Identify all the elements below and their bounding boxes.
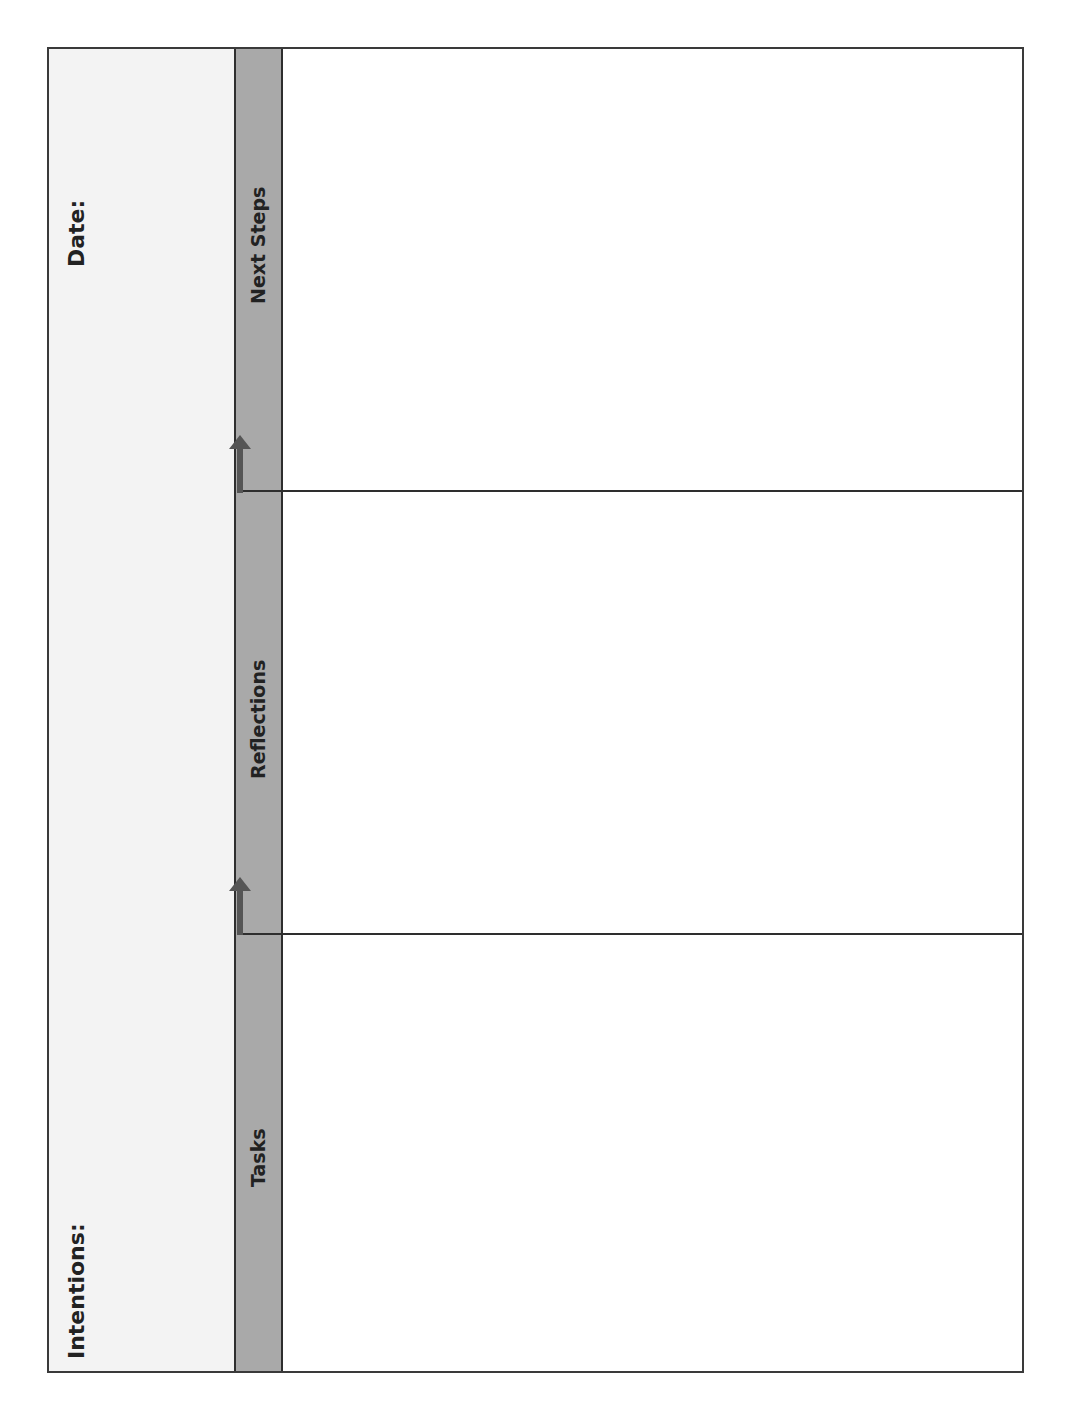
- date-label: Date:: [64, 200, 89, 267]
- section-divider: [239, 933, 1022, 935]
- section-label-tasks: Tasks: [247, 1128, 269, 1187]
- arrow-up-icon: [227, 875, 251, 937]
- section-area-next-steps[interactable]: [283, 49, 1022, 490]
- section-label-next-steps: Next Steps: [247, 187, 269, 304]
- section-area-tasks[interactable]: [283, 935, 1022, 1371]
- intentions-label: Intentions:: [64, 1223, 89, 1359]
- section-label-band: Next Steps Reflections Tasks: [236, 49, 283, 1371]
- section-area-reflections[interactable]: [283, 492, 1022, 933]
- section-label-reflections: Reflections: [247, 660, 269, 779]
- worksheet: Date: Intentions: Next Steps Reflections…: [47, 47, 1024, 1373]
- header-panel: Date: Intentions:: [49, 49, 236, 1371]
- arrow-up-icon: [227, 433, 251, 495]
- section-divider: [239, 490, 1022, 492]
